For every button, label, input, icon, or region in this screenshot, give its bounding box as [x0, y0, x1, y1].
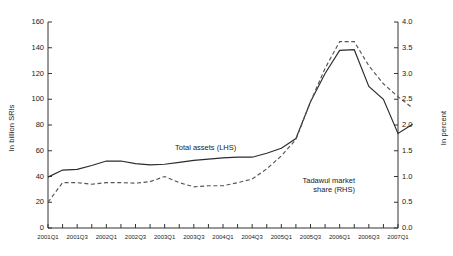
- y-tick-label-left: 20: [36, 199, 44, 207]
- x-tick-label: 2003Q1: [154, 234, 175, 240]
- y-tick-label-right: 0.0: [402, 224, 412, 232]
- x-tick-label: 2004Q1: [212, 234, 233, 240]
- y-tick-label-left: 140: [31, 44, 44, 52]
- series-line-total-assets: [48, 50, 413, 177]
- y-tick-label-left: 100: [31, 96, 44, 104]
- y-tick-label-right: 1.0: [402, 173, 412, 181]
- y-tick-label-left: 0: [40, 224, 44, 232]
- x-tick-label: 2006Q3: [358, 234, 379, 240]
- annotation-tadawul-line1: Tadawul market: [302, 176, 355, 185]
- x-tick-label: 2004Q3: [241, 234, 262, 240]
- y-tick-label-left: 120: [31, 70, 44, 78]
- x-tick-label: 2002Q1: [96, 234, 117, 240]
- series-line-tadawul-market-share: [48, 42, 413, 203]
- y-tick-label-left: 40: [36, 173, 44, 181]
- annotation-tadawul-market-share: Tadawul market share (RHS): [302, 176, 355, 195]
- y-tick-label-right: 0.5: [402, 199, 412, 207]
- y-axis-right-title: In percent: [439, 111, 448, 145]
- y-tick-label-left: 160: [31, 18, 44, 26]
- y-tick-label-right: 2.0: [402, 121, 412, 129]
- y-tick-label-left: 60: [36, 147, 44, 155]
- annotation-tadawul-line2: share (RHS): [302, 185, 355, 194]
- y-tick-label-right: 4.0: [402, 18, 412, 26]
- x-tick-label: 2001Q3: [66, 234, 87, 240]
- annotation-total-assets: Total assets (LHS): [175, 143, 236, 152]
- x-tick-label: 2007Q1: [387, 234, 408, 240]
- y-tick-label-right: 1.5: [402, 147, 412, 155]
- y-tick-label-right: 3.5: [402, 44, 412, 52]
- y-axis-left-ticks: [48, 22, 52, 228]
- chart-container: In billion SRls In percent 0204060801001…: [0, 0, 453, 256]
- y-tick-label-right: 3.0: [402, 70, 412, 78]
- x-tick-label: 2005Q1: [271, 234, 292, 240]
- y-tick-label-right: 2.5: [402, 96, 412, 104]
- x-tick-label: 2001Q1: [37, 234, 58, 240]
- y-axis-left-title: In billion SRls: [7, 105, 16, 152]
- plot-area: [0, 0, 453, 256]
- x-tick-label: 2003Q3: [183, 234, 204, 240]
- x-axis-ticks: [48, 224, 398, 228]
- x-tick-label: 2005Q3: [300, 234, 321, 240]
- x-tick-label: 2002Q3: [125, 234, 146, 240]
- x-tick-label: 2006Q1: [329, 234, 350, 240]
- y-tick-label-left: 80: [36, 121, 44, 129]
